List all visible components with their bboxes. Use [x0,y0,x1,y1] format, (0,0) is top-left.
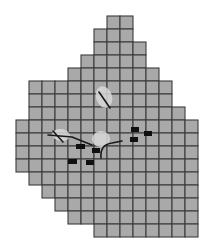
grid-cell [107,211,120,224]
grid-cell [185,120,198,133]
grid-cell [120,29,133,42]
grid-cell [172,146,185,159]
grid-cell [42,94,55,107]
grid-cell [29,107,42,120]
grid-cell [172,211,185,224]
grid-cell [133,68,146,81]
grid-cell [29,159,42,172]
grid-cell [68,107,81,120]
grid-cell [133,94,146,107]
grid-cell [120,81,133,94]
grid-cell [120,16,133,29]
sample-site-marker [131,127,139,132]
grid-cell [133,55,146,68]
sample-site-marker [144,131,152,136]
grid-cell [159,172,172,185]
grid-cell [107,55,120,68]
grid-cell [29,133,42,146]
grid-cell [172,159,185,172]
grid-cell [146,159,159,172]
grid-cell [146,185,159,198]
grid-cell [133,159,146,172]
grid-cell [42,146,55,159]
grid-cell [120,146,133,159]
grid-cell [55,94,68,107]
grid-cell [185,185,198,198]
grid-cell [185,172,198,185]
grid-cell [55,172,68,185]
grid-cell [146,172,159,185]
grid-cell [107,68,120,81]
sample-site-marker [68,159,77,164]
grid-cell [120,55,133,68]
grid-cell [159,159,172,172]
grid-cell [55,198,68,211]
grid-cell [133,211,146,224]
grid-cell [94,198,107,211]
grid-cell [133,198,146,211]
grid-cell [133,224,146,237]
grid-cell [159,107,172,120]
grid-cell [185,198,198,211]
grid-cell [133,185,146,198]
grid-cell [159,120,172,133]
grid-cell [55,159,68,172]
grid-cell [68,68,81,81]
grid-cell [120,94,133,107]
grid-cell [146,68,159,81]
grid-cell [94,29,107,42]
grid-cell [81,68,94,81]
grid-cell [81,107,94,120]
grid-cell [42,107,55,120]
grid-cell [68,185,81,198]
grid-cell [42,172,55,185]
grid-cell [94,211,107,224]
grid-cell [81,55,94,68]
grid-cell [81,198,94,211]
grid-cell [16,146,29,159]
grid-cell [133,42,146,55]
grid-cell [107,29,120,42]
grid-cell [29,94,42,107]
grid-cell [146,107,159,120]
grid-cell [120,198,133,211]
grid-cell [16,120,29,133]
grid-cell [68,198,81,211]
grid-cell [159,81,172,94]
grid-cell [120,224,133,237]
grid-cell [159,198,172,211]
grid-cell [107,16,120,29]
grid-cell [94,224,107,237]
grid-cell [81,172,94,185]
grid-cell [185,211,198,224]
grid-cell [172,120,185,133]
sample-site-marker [130,137,138,142]
grid-cell [94,68,107,81]
grid-cell [16,133,29,146]
grid-cell [107,172,120,185]
grid-cell [81,94,94,107]
grid-cell [29,172,42,185]
grid-cell [107,42,120,55]
grid-cell [42,159,55,172]
grid-cell [185,133,198,146]
grid-cell [159,133,172,146]
grid-cell [81,211,94,224]
grid-cell [107,146,120,159]
grid-cell [68,211,81,224]
grid-cell [94,172,107,185]
grid-cell [146,94,159,107]
grid-cell [159,224,172,237]
grid-cell [94,159,107,172]
grid-cell [29,146,42,159]
grid-cell [146,198,159,211]
grid-cell [94,107,107,120]
grid-cell [68,120,81,133]
grid-cell [94,42,107,55]
figure-container [0,0,207,246]
grid-cell [172,133,185,146]
grid-cell [185,159,198,172]
grid-cell [133,146,146,159]
grid-cell [159,211,172,224]
grid-cell [94,55,107,68]
